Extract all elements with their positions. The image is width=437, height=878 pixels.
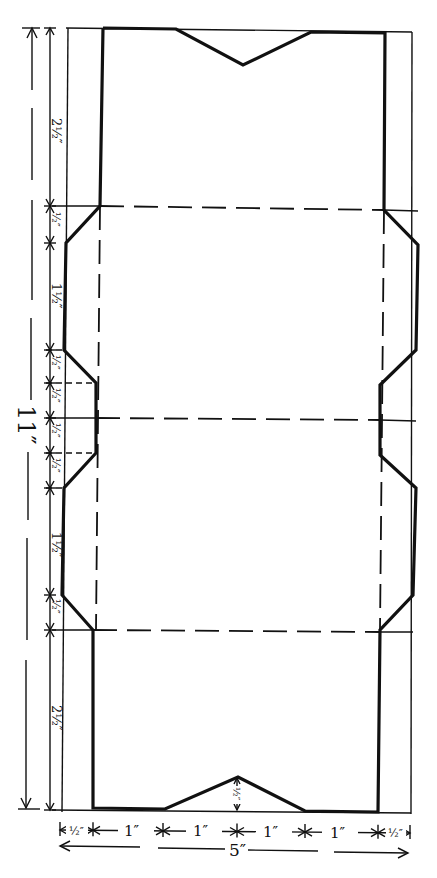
dim-label-11: 11″ bbox=[12, 405, 40, 445]
dim-label-1-5-bottom: 1½″ bbox=[49, 532, 64, 558]
dim-label-2-5-bottom: 2½″ bbox=[49, 705, 64, 731]
overall-width-dimension: 5″ bbox=[60, 840, 408, 860]
dim-label-0-5-e: ½″ bbox=[49, 458, 62, 473]
fold-line-3 bbox=[93, 630, 380, 632]
dim-label-0-5-d: ½″ bbox=[49, 423, 62, 438]
outer-boundary bbox=[52, 28, 412, 814]
fold-line-2 bbox=[96, 418, 380, 420]
dim-label-0-5-f: ½″ bbox=[49, 599, 62, 614]
dim-label-h-1-a: 1″ bbox=[124, 822, 140, 840]
right-edge-thin bbox=[411, 32, 412, 814]
dim-label-h-0-5-left: ½″ bbox=[69, 825, 84, 838]
box-template-diagram: 2½″ ½″ 1½″ ½″ ½″ ½″ ½″ 1½″ ½″ 2½″ 11″ ½″ bbox=[0, 0, 437, 878]
cut-outline bbox=[62, 28, 418, 812]
overall-height-dimension: 11″ bbox=[12, 28, 40, 809]
vertical-dimension-chain: 2½″ ½″ 1½″ ½″ ½″ ½″ ½″ 1½″ ½″ 2½″ bbox=[44, 28, 64, 810]
dim-label-0-5-a: ½″ bbox=[49, 212, 62, 227]
dim-label-0-5-b: ½″ bbox=[49, 355, 62, 370]
dim-label-h-1-c: 1″ bbox=[263, 823, 279, 841]
notch-depth-dimension: ½″ bbox=[231, 778, 244, 810]
dim-label-1-5-top: 1½″ bbox=[49, 283, 64, 309]
horizontal-dimension-chain: ½″ 1″ 1″ 1″ 1″ ½″ bbox=[60, 822, 410, 842]
dim-label-h-1-d: 1″ bbox=[330, 824, 346, 842]
dim-label-5: 5″ bbox=[229, 840, 246, 860]
dim-label-2-5-top: 2½″ bbox=[49, 118, 64, 144]
dim-label-h-0-5-right: ½″ bbox=[388, 827, 403, 840]
dim-label-notch: ½″ bbox=[231, 787, 242, 801]
dim-label-h-1-b: 1″ bbox=[193, 822, 209, 840]
dim-label-0-5-c: ½″ bbox=[49, 388, 62, 403]
left-edge-thin bbox=[62, 28, 68, 812]
fold-line-1 bbox=[100, 206, 384, 210]
